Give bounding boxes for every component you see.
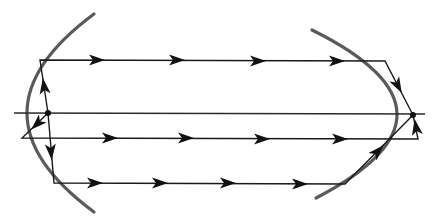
arrow-icon [409, 118, 423, 136]
ray-diagram [0, 0, 438, 220]
left-focus [45, 110, 51, 116]
top-ray [40, 60, 413, 115]
right-focus [410, 112, 416, 118]
axis-line [14, 113, 425, 114]
rays [22, 60, 418, 184]
optical-axis [14, 113, 425, 114]
arrow-icon [37, 77, 50, 94]
middle-ray [22, 113, 418, 139]
